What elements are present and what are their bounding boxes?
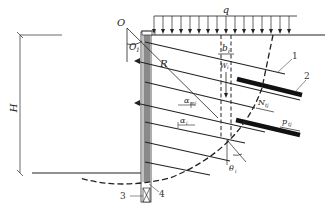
callout-leaders — [130, 59, 306, 196]
wall-facing — [141, 31, 155, 202]
label-N-sub: tj — [265, 102, 269, 109]
N-arrow — [256, 108, 274, 112]
callout-3: 3 — [120, 191, 126, 201]
label-b-sub: i — [228, 47, 230, 54]
label-p-sub: tj — [288, 121, 292, 128]
toe-embedment — [143, 188, 150, 202]
label-O1-sub: 1 — [136, 46, 140, 53]
soil-nail-diagram: H q O O 1 R — [0, 0, 334, 212]
nail-arrowheads — [134, 58, 140, 106]
height-dimension — [17, 32, 62, 176]
label-alpha-m-sub: mj — [190, 100, 197, 107]
callout-4: 4 — [159, 189, 165, 199]
label-O: O — [117, 17, 125, 28]
label-theta: θ — [229, 164, 234, 173]
weight-arrowhead — [224, 93, 228, 98]
label-q: q — [223, 4, 229, 15]
label-H: H — [8, 103, 19, 113]
callout-1: 1 — [292, 51, 298, 61]
load-arrow-set — [152, 16, 291, 34]
slip-surface — [80, 35, 273, 184]
label-p: p — [282, 117, 287, 126]
label-W-sub: i — [227, 64, 229, 70]
label-theta-sub: i — [235, 168, 237, 174]
callout-2: 2 — [304, 71, 310, 81]
